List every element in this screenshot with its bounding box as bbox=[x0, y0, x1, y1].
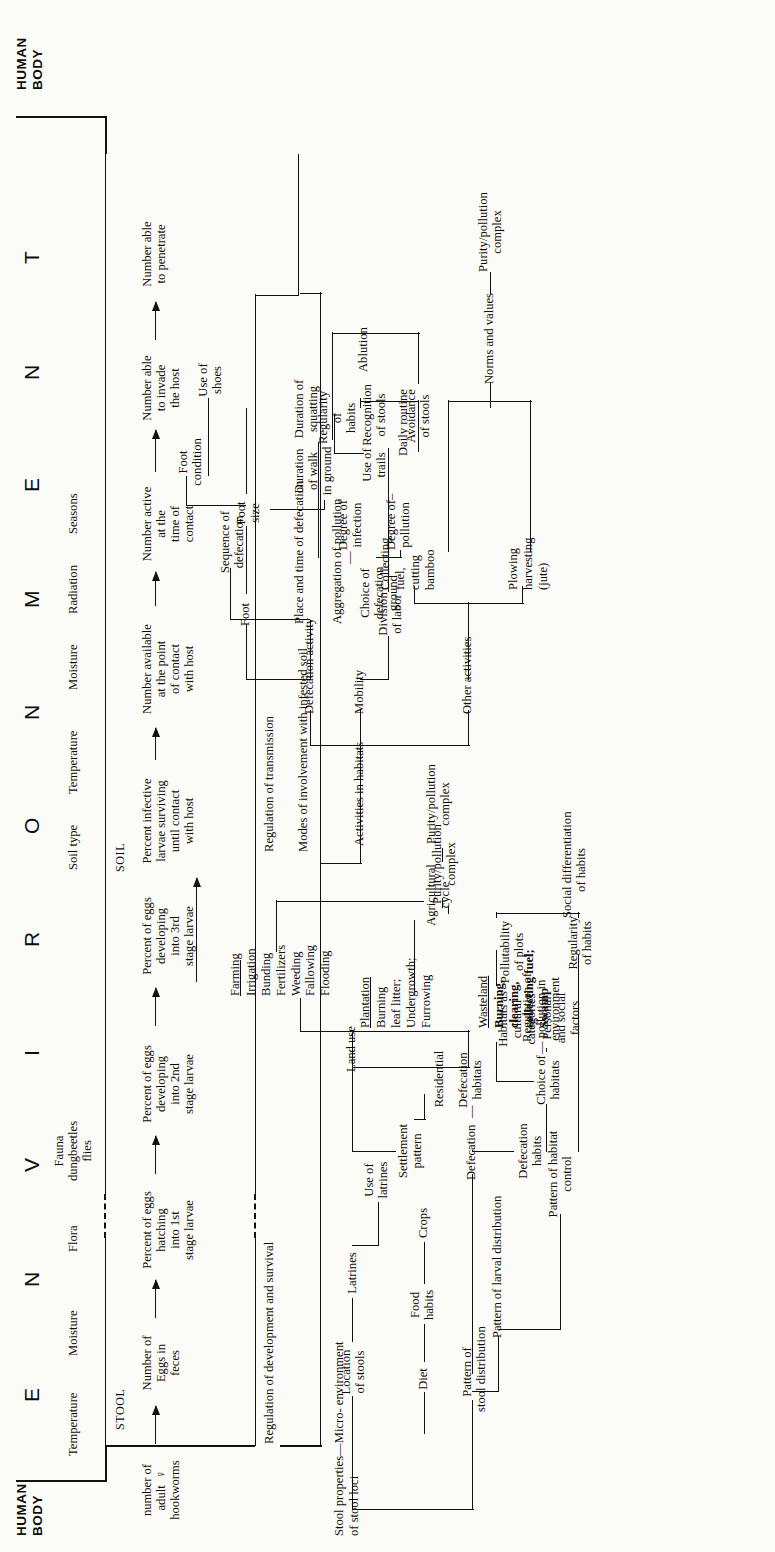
node-wasteland-items: Burning, clearing, collecting fuel; Swam… bbox=[492, 949, 551, 1028]
node-agricultural-cycle: Agricultural cycle bbox=[424, 860, 452, 930]
line-foot-vert bbox=[246, 679, 310, 680]
spine-letter-0: E bbox=[20, 1388, 44, 1402]
line-settlement-to-landuse-vert bbox=[352, 1151, 396, 1152]
node-social-differentiation: Social differentiation of habits bbox=[560, 822, 588, 918]
line-plantation-to-agcycle bbox=[414, 920, 415, 992]
line-latrines-down bbox=[352, 1245, 378, 1246]
line-defecation-habits-to-choice bbox=[546, 1104, 547, 1152]
line-regulation-vert bbox=[496, 1081, 534, 1082]
other-bracket-vert bbox=[414, 603, 524, 604]
spine-letter-8: E bbox=[20, 478, 44, 492]
line-defecation-activity-rail bbox=[310, 620, 311, 680]
node-plantation-items: Burning leaf litter; Undergrowth; Furrow… bbox=[374, 958, 433, 1028]
line-foot-size-to-squatting bbox=[246, 408, 247, 494]
compartment-top-rail-soil bbox=[105, 154, 106, 1194]
node-avoidance-of-stools: Avoidance of stools bbox=[404, 382, 432, 450]
node-foot-size: Foot size bbox=[234, 494, 262, 532]
line-mobility-to-division bbox=[388, 636, 389, 680]
node-choice-of-defecation-ground: Choice of defecation ground bbox=[358, 558, 400, 628]
node-defecation-habitats: Defecation habitats bbox=[456, 1048, 484, 1112]
left-endpoint-label: HUMAN BODY bbox=[14, 1483, 45, 1536]
node-recognition-of-stools: Recognition of stools bbox=[360, 380, 388, 450]
spine-letter-2: V bbox=[20, 1158, 44, 1172]
node-norms-and-values: Norms and values bbox=[482, 293, 496, 384]
line-duration-join bbox=[324, 500, 325, 510]
line-agcycle-join bbox=[442, 898, 443, 908]
node-duration-of-squatting: Duration of squatting bbox=[292, 376, 320, 442]
env-factor-seasons: Seasons bbox=[66, 493, 80, 534]
dash-pollution-trails: – bbox=[384, 494, 398, 500]
node-degree-of-infection: Degree of infection bbox=[336, 496, 364, 554]
line-foot-rail bbox=[246, 526, 247, 594]
node-mobility: Mobility bbox=[352, 670, 366, 714]
landuse-bracket-to-farming bbox=[300, 998, 301, 1032]
chain-arrow-1 bbox=[155, 1280, 156, 1318]
line-norms-to-purity bbox=[490, 272, 491, 294]
behaviour-right-vert bbox=[300, 293, 322, 294]
compartment-divider-stool-soil-bottom bbox=[254, 1194, 256, 1238]
line-other-to-bracket bbox=[468, 602, 469, 680]
node-wasteland-head: Wasteland bbox=[476, 976, 490, 1028]
node-latrines: Latrines bbox=[345, 1246, 359, 1300]
node-regularity-of-habits-left: Regularity of habits bbox=[566, 912, 594, 974]
landuse-bracket-vert2 bbox=[300, 1031, 470, 1032]
chain-node-available-at-contact: Number available at the point of contact… bbox=[140, 608, 196, 730]
env-factor-moisture-soil: Moisture bbox=[66, 645, 80, 690]
chain-arrow-4 bbox=[196, 878, 197, 982]
node-use-of-shoes: Use of shoes bbox=[196, 356, 224, 404]
landuse-bracket-to-plantation bbox=[352, 1030, 353, 1068]
line-settlement-vert-down bbox=[414, 1119, 426, 1120]
line-foot-size-vert bbox=[186, 505, 246, 506]
line-mobility-vert bbox=[360, 679, 388, 680]
chain-node-penetrate: Number able to penetrate bbox=[140, 202, 168, 306]
node-use-of-latrines: Use of latrines bbox=[362, 1156, 390, 1204]
figure-canvas: E N V I R O N M E N T HUMAN BODY HUMAN B… bbox=[0, 0, 775, 1552]
line-location-to-latrines bbox=[352, 1298, 353, 1342]
node-foot: Foot bbox=[238, 603, 252, 626]
line-degree-pollution-join bbox=[400, 550, 401, 558]
node-duration-of-walk: Duration of walk in ground bbox=[292, 442, 334, 500]
line-foot-condition-to-shoes bbox=[208, 398, 209, 476]
line-agcycle-vert bbox=[276, 901, 424, 902]
dash-defecation-joiner: — bbox=[464, 1105, 478, 1118]
node-degree-of-pollution: Degree of pollution bbox=[384, 496, 412, 554]
line-farming-to-agcycle bbox=[276, 900, 277, 952]
line-activities-vert bbox=[320, 863, 362, 864]
spine-letter-1: N bbox=[20, 1272, 44, 1287]
line-larval-vert bbox=[472, 1391, 498, 1392]
behaviour-left-vert bbox=[280, 1445, 322, 1447]
line-root-to-pattern-stool bbox=[472, 1400, 473, 1510]
env-factor-flora: Flora bbox=[66, 1225, 80, 1252]
chain-node-active-at-contact: Number active at the time of contact bbox=[140, 474, 196, 574]
line-defecation-habits-vert bbox=[472, 1151, 514, 1152]
line-settlement-top bbox=[352, 1066, 353, 1152]
left-body-bracket-vert bbox=[16, 1480, 106, 1482]
line-behaviour-to-activities bbox=[320, 864, 321, 872]
activities-defecation-vert bbox=[310, 745, 362, 746]
env-factor-moisture-stool: Moisture bbox=[66, 1311, 80, 1356]
line-pattern-stool-to-larval bbox=[498, 1336, 499, 1392]
line-recognition-join bbox=[334, 414, 335, 454]
chain-arrow-5 bbox=[155, 728, 156, 760]
node-location-of-stools: Location of stools bbox=[339, 1344, 367, 1400]
spine-letter-4: R bbox=[20, 932, 44, 947]
node-pattern-of-larval-distribution: Pattern of larval distribution bbox=[490, 1196, 504, 1338]
env-factor-temperature-stool: Temperature bbox=[66, 1393, 80, 1456]
node-pattern-of-habitat-control: Pattern of habitat control bbox=[546, 1126, 574, 1222]
activities-bracket-vert bbox=[360, 745, 470, 746]
chain-arrow-3 bbox=[155, 988, 156, 1026]
node-place-and-time: Place and time of defecation bbox=[292, 558, 307, 624]
node-diet: Diet bbox=[416, 1364, 430, 1394]
activities-to-defecation-activity bbox=[310, 710, 311, 746]
line-personal-to-choice bbox=[546, 1048, 547, 1052]
node-farming-items: Irrigation Bunding Fertilizers Weeding F… bbox=[244, 945, 333, 996]
spine-letter-3: I bbox=[20, 1050, 44, 1056]
spine-letter-10: T bbox=[20, 251, 44, 264]
node-farming-head: Farming bbox=[228, 953, 242, 996]
left-body-bracket-horz bbox=[105, 1446, 107, 1482]
env-factor-temperature-soil: Temperature bbox=[66, 731, 80, 794]
env-factor-fauna: Fauna dungbeetles flies bbox=[52, 1106, 94, 1196]
line-duration-of-walk-vert bbox=[270, 509, 324, 510]
compartment-bottom-rail-stool bbox=[255, 1238, 256, 1446]
node-crops: Crops bbox=[416, 1202, 430, 1244]
